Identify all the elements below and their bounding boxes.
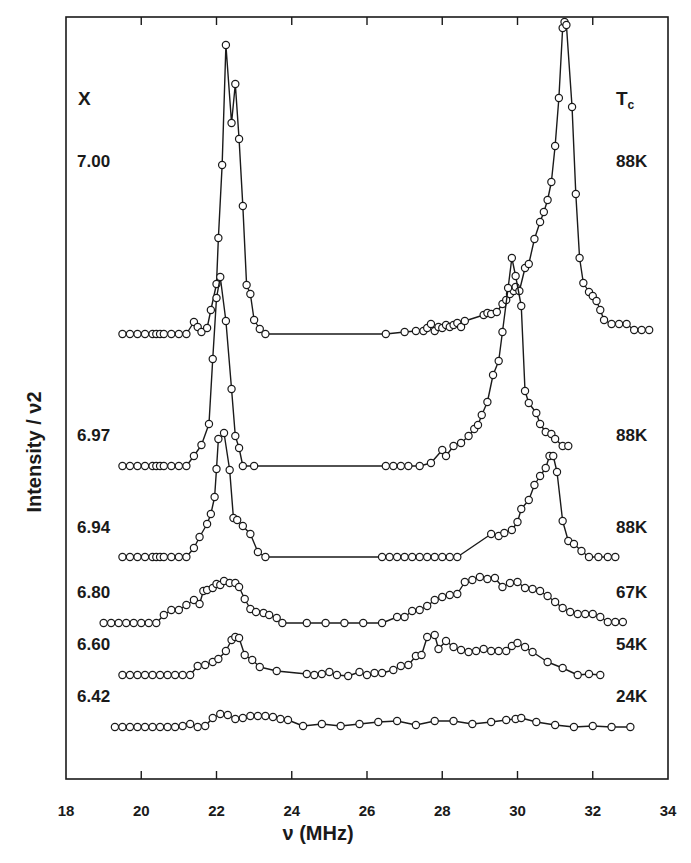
data-point-marker — [529, 585, 536, 592]
data-point-marker — [179, 722, 186, 729]
data-point-marker — [536, 420, 543, 427]
data-point-marker — [409, 553, 416, 560]
data-point-marker — [228, 119, 235, 126]
data-point-marker — [299, 722, 306, 729]
data-point-marker — [119, 553, 126, 560]
data-point-marker — [311, 671, 318, 678]
data-point-marker — [514, 518, 521, 525]
data-point-marker — [450, 442, 457, 449]
data-point-marker — [126, 671, 133, 678]
data-point-marker — [612, 553, 619, 560]
data-point-marker — [506, 579, 513, 586]
x-tick-label: 32 — [584, 802, 601, 819]
data-point-marker — [134, 330, 141, 337]
data-point-marker — [533, 409, 540, 416]
y-axis-title: Intensity / ν2 — [23, 391, 46, 512]
data-point-marker — [512, 272, 519, 279]
data-point-marker — [397, 662, 404, 669]
data-point-marker — [518, 505, 525, 512]
data-point-marker — [141, 330, 148, 337]
data-point-marker — [217, 273, 224, 280]
data-point-marker — [574, 671, 581, 678]
data-point-marker — [488, 718, 495, 725]
series-x-label: 6.97 — [77, 426, 110, 446]
data-point-marker — [491, 574, 498, 581]
data-point-marker — [559, 517, 566, 524]
data-point-marker — [168, 330, 175, 337]
data-point-marker — [484, 575, 491, 582]
data-point-marker — [418, 651, 425, 658]
data-point-marker — [243, 281, 250, 288]
data-point-marker — [232, 80, 239, 87]
data-point-marker — [100, 619, 107, 626]
data-point-marker — [356, 668, 363, 675]
data-point-marker — [604, 553, 611, 560]
data-point-marker — [215, 234, 222, 241]
data-point-marker — [115, 619, 122, 626]
data-point-marker — [563, 21, 570, 28]
data-point-marker — [232, 715, 239, 722]
data-point-marker — [123, 619, 130, 626]
data-point-marker — [435, 645, 442, 652]
data-point-marker — [431, 596, 438, 603]
data-point-marker — [172, 723, 179, 730]
data-point-marker — [220, 429, 227, 436]
data-point-marker — [262, 712, 269, 719]
series-x-label: 6.42 — [77, 687, 110, 707]
data-point-marker — [172, 671, 179, 678]
data-point-marker — [623, 320, 630, 327]
data-point-marker — [252, 608, 259, 615]
data-point-marker — [190, 544, 197, 551]
data-point-marker — [576, 254, 583, 261]
data-point-marker — [427, 320, 434, 327]
data-point-marker — [141, 723, 148, 730]
data-point-marker — [202, 661, 209, 668]
data-point-marker — [480, 645, 487, 652]
data-point-marker — [318, 670, 325, 677]
data-point-marker — [465, 432, 472, 439]
data-point-marker — [401, 553, 408, 560]
data-point-marker — [175, 330, 182, 337]
x-tick-label: 34 — [660, 802, 677, 819]
data-point-marker — [232, 432, 239, 439]
data-point-marker — [239, 202, 246, 209]
data-point-marker — [194, 723, 201, 730]
data-point-marker — [600, 316, 607, 323]
data-point-marker — [597, 671, 604, 678]
data-point-marker — [337, 722, 344, 729]
series-tc-label: 88K — [616, 152, 647, 172]
data-point-marker — [559, 604, 566, 611]
data-point-marker — [226, 466, 233, 473]
data-point-marker — [431, 717, 438, 724]
data-point-marker — [504, 284, 511, 291]
data-point-marker — [168, 553, 175, 560]
data-point-marker — [194, 662, 201, 669]
tc-header-label: Tc — [616, 88, 634, 112]
data-point-marker — [205, 420, 212, 427]
data-point-marker — [390, 462, 397, 469]
data-point-marker — [247, 712, 254, 719]
data-point-marker — [457, 646, 464, 653]
data-point-marker — [552, 142, 559, 149]
data-point-marker — [412, 327, 419, 334]
data-point-marker — [211, 493, 218, 500]
x-tick-label: 28 — [434, 802, 451, 819]
data-point-marker — [416, 606, 423, 613]
data-point-marker — [141, 553, 148, 560]
data-point-marker — [412, 721, 419, 728]
series-tc-label: 67K — [616, 583, 647, 603]
data-point-marker — [542, 464, 549, 471]
data-point-marker — [222, 647, 229, 654]
data-point-marker — [394, 553, 401, 560]
data-point-marker — [544, 592, 551, 599]
data-point-marker — [160, 611, 167, 618]
data-point-marker — [442, 637, 449, 644]
data-point-marker — [254, 712, 261, 719]
data-point-marker — [521, 387, 528, 394]
data-point-marker — [168, 462, 175, 469]
data-point-marker — [548, 178, 555, 185]
series-tc-label: 24K — [616, 687, 647, 707]
data-point-marker — [582, 610, 589, 617]
data-point-marker — [371, 669, 378, 676]
data-point-marker — [141, 671, 148, 678]
